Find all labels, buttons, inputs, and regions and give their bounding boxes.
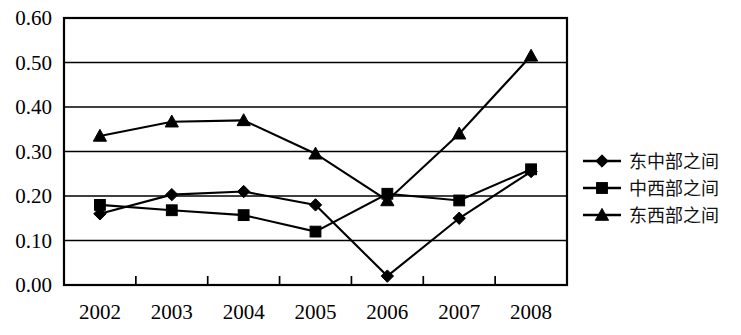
y-tick-label: 0.40 xyxy=(15,95,52,119)
legend-item-2[interactable]: 中西部之间 xyxy=(583,178,719,199)
x-tick-label: 2008 xyxy=(510,300,552,324)
series-3 xyxy=(93,49,537,206)
x-tick-label: 2002 xyxy=(79,300,121,324)
diamond-marker-icon xyxy=(166,188,178,200)
square-marker-icon xyxy=(526,164,537,175)
line-chart: 0.600.500.400.300.200.100.00200220032004… xyxy=(0,0,741,335)
y-tick-label: 0.10 xyxy=(15,229,52,253)
legend-label-3: 东西部之间 xyxy=(629,205,719,226)
legend-item-3[interactable]: 东西部之间 xyxy=(583,205,719,226)
x-tick-label: 2007 xyxy=(438,300,480,324)
y-tick-label: 0.30 xyxy=(15,140,52,164)
y-tick-label: 0.00 xyxy=(15,273,52,297)
chart-page: 0.600.500.400.300.200.100.00200220032004… xyxy=(0,0,741,335)
series-line-1 xyxy=(100,172,531,277)
legend: 东中部之间中西部之间东西部之间 xyxy=(583,151,719,226)
square-marker-icon xyxy=(310,226,321,237)
legend-label-1: 东中部之间 xyxy=(629,151,719,172)
triangle-marker-icon xyxy=(524,49,537,61)
x-tick-label: 2003 xyxy=(151,300,193,324)
series-1 xyxy=(94,165,538,282)
chart-canvas: 0.600.500.400.300.200.100.00200220032004… xyxy=(0,0,741,335)
legend-item-1[interactable]: 东中部之间 xyxy=(583,151,719,172)
y-tick-label: 0.60 xyxy=(15,6,52,30)
x-tick-label: 2004 xyxy=(223,300,266,324)
square-marker-icon xyxy=(166,205,177,216)
y-tick-label: 0.50 xyxy=(15,51,52,75)
square-marker-icon xyxy=(95,200,106,211)
y-axis-labels: 0.600.500.400.300.200.100.00 xyxy=(15,6,52,297)
diamond-marker-icon xyxy=(596,155,608,167)
x-tick-label: 2005 xyxy=(295,300,337,324)
y-tick-label: 0.20 xyxy=(15,184,52,208)
x-tick-label: 2006 xyxy=(366,300,408,324)
legend-label-2: 中西部之间 xyxy=(629,178,719,199)
square-marker-icon xyxy=(238,210,249,221)
triangle-marker-icon xyxy=(309,147,322,159)
series-line-3 xyxy=(100,56,531,201)
x-axis-labels: 2002200320042005200620072008 xyxy=(79,300,552,324)
square-marker-icon xyxy=(454,195,465,206)
x-tick-marks xyxy=(136,276,495,285)
square-marker-icon xyxy=(597,183,608,194)
